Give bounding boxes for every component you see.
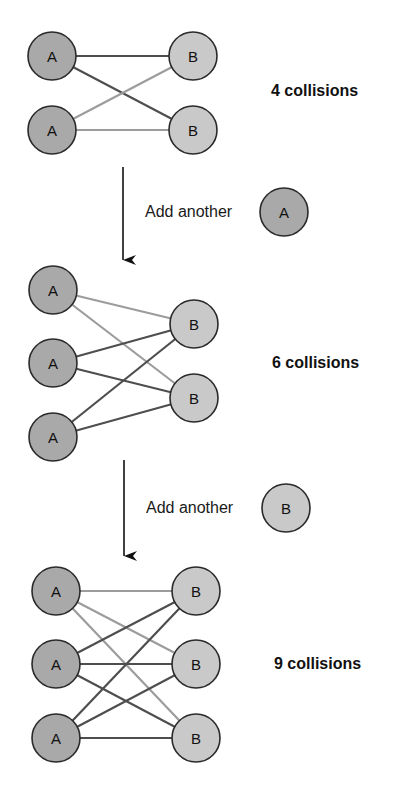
- node-b-1-label: B: [191, 583, 201, 600]
- node-a-3: A: [29, 413, 77, 461]
- node-a-2-label: A: [48, 355, 58, 372]
- node-b-1: B: [172, 567, 220, 615]
- collision-count-label: 6 collisions: [272, 354, 359, 371]
- node-a-1: A: [29, 266, 77, 314]
- node-a-2-label: A: [47, 122, 57, 139]
- add-another-label: Add another: [146, 499, 234, 516]
- node-b-2-label: B: [188, 122, 198, 139]
- node-a-3: A: [32, 714, 80, 762]
- node-a-1-label: A: [51, 583, 61, 600]
- node-b-1: B: [169, 32, 217, 80]
- node-a-2: A: [28, 106, 76, 154]
- added-node-b-label: B: [281, 500, 291, 517]
- node-b-2-label: B: [191, 656, 201, 673]
- node-b-2: B: [169, 106, 217, 154]
- node-a-2: A: [32, 640, 80, 688]
- collision-count-label: 9 collisions: [274, 655, 361, 672]
- node-a-1-label: A: [47, 48, 57, 65]
- node-b-2: B: [172, 640, 220, 688]
- collision-diagram: AABBAAABBAAABBBAB 4 collisions6 collisio…: [0, 0, 406, 788]
- node-b-1-label: B: [188, 48, 198, 65]
- node-b-3-label: B: [191, 730, 201, 747]
- added-node-b: B: [262, 484, 310, 532]
- node-a-1: A: [28, 32, 76, 80]
- added-node-a: A: [260, 188, 308, 236]
- arrows-layer: [123, 167, 124, 556]
- node-b-2-label: B: [189, 390, 199, 407]
- collision-count-label: 4 collisions: [271, 82, 358, 99]
- node-a-1-label: A: [48, 282, 58, 299]
- node-b-3: B: [172, 714, 220, 762]
- node-a-2: A: [29, 339, 77, 387]
- node-a-3-label: A: [48, 429, 58, 446]
- added-node-a-label: A: [279, 204, 289, 221]
- nodes-layer: AABBAAABBAAABBBAB: [28, 32, 310, 762]
- node-b-1: B: [170, 300, 218, 348]
- node-a-1: A: [32, 567, 80, 615]
- node-a-3-label: A: [51, 730, 61, 747]
- add-another-label: Add another: [145, 203, 233, 220]
- node-a-2-label: A: [51, 656, 61, 673]
- node-b-1-label: B: [189, 316, 199, 333]
- panel-2-nodes: AAABB: [29, 266, 218, 461]
- node-b-2: B: [170, 374, 218, 422]
